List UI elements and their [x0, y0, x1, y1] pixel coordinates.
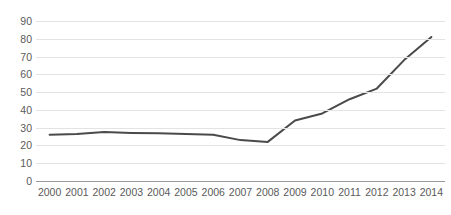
x-tick-label: 2012	[365, 187, 388, 198]
x-tick-label: 2011	[338, 187, 361, 198]
y-tick-label: 10	[4, 158, 32, 169]
gridline	[36, 163, 445, 164]
y-tick-label: 80	[4, 34, 32, 45]
x-tick-label: 2002	[92, 187, 115, 198]
y-tick-label: 20	[4, 140, 32, 151]
gridline	[36, 110, 445, 111]
x-tick-label: 2001	[65, 187, 88, 198]
x-tick-label: 2009	[283, 187, 306, 198]
y-tick-label: 90	[4, 16, 32, 27]
x-tick-label: 2006	[202, 187, 225, 198]
x-axis: 2000200120022003200420052006200720082009…	[36, 187, 445, 207]
x-tick-label: 2007	[229, 187, 252, 198]
line-chart: 0102030405060708090 20002001200220032004…	[0, 0, 451, 215]
gridline	[36, 39, 445, 40]
x-tick-label: 2010	[311, 187, 334, 198]
y-tick-label: 50	[4, 87, 32, 98]
y-tick-label: 0	[4, 176, 32, 187]
gridline	[36, 57, 445, 58]
axis-baseline	[36, 181, 445, 182]
gridline	[36, 74, 445, 75]
plot-area	[36, 21, 445, 181]
x-tick-label: 2004	[147, 187, 170, 198]
gridline	[36, 92, 445, 93]
gridline	[36, 145, 445, 146]
x-tick-label: 2013	[392, 187, 415, 198]
gridline	[36, 128, 445, 129]
data-series-line	[36, 21, 445, 181]
x-tick-label: 2003	[120, 187, 143, 198]
y-tick-label: 30	[4, 123, 32, 134]
x-tick-label: 2000	[38, 187, 61, 198]
y-axis: 0102030405060708090	[0, 0, 32, 215]
x-tick-label: 2014	[420, 187, 443, 198]
y-tick-label: 40	[4, 105, 32, 116]
x-tick-label: 2005	[174, 187, 197, 198]
y-tick-label: 60	[4, 69, 32, 80]
x-tick-label: 2008	[256, 187, 279, 198]
gridline	[36, 21, 445, 22]
y-tick-label: 70	[4, 52, 32, 63]
